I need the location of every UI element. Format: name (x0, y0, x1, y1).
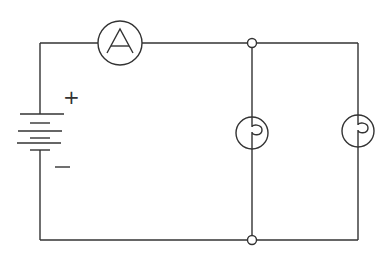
lamp-2 (342, 115, 374, 147)
ammeter: A (0, 0, 142, 65)
circuit-diagram: + A (0, 0, 392, 253)
wires (40, 43, 358, 240)
battery: + (17, 85, 80, 167)
bottom-node (248, 236, 257, 245)
positive-terminal-label: + (63, 85, 80, 109)
lamp-1 (236, 117, 268, 149)
top-node (248, 39, 257, 48)
